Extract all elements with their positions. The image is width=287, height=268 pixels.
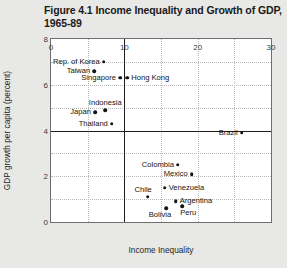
x-axis-tick-label: 0 — [49, 43, 53, 52]
data-point-label: Colombia — [142, 161, 174, 169]
gridline-horizontal — [51, 153, 271, 154]
data-point — [146, 195, 150, 199]
y-axis-tick-label: 6 — [44, 80, 48, 89]
y-axis-label: GDP growth per capita (percent) — [2, 38, 14, 223]
data-point-label: Japan — [70, 108, 91, 116]
data-point — [102, 60, 106, 64]
data-point-label: Rep. of Korea — [53, 58, 100, 66]
figure-title: Figure 4.1 Income Inequality and Growth … — [44, 4, 282, 29]
data-point — [174, 200, 178, 204]
figure-title-line2: 1965-89 — [44, 17, 282, 30]
data-point — [163, 186, 167, 190]
data-point-label: Indonesia — [89, 99, 122, 107]
x-axis-tick-label: 30 — [267, 43, 276, 52]
gridline-horizontal — [51, 176, 271, 177]
data-point — [110, 122, 114, 126]
data-point — [190, 172, 194, 176]
data-point — [125, 76, 129, 80]
y-axis-tick-label: 2 — [44, 172, 48, 181]
x-axis-label: Income Inequality — [50, 245, 272, 255]
data-point-label: Venezuela — [169, 184, 204, 192]
data-point-label: Hong Kong — [131, 74, 169, 82]
x-axis-tick-label: 20 — [193, 43, 202, 52]
reference-line-horizontal — [51, 131, 271, 132]
x-axis-tick-label: 10 — [120, 43, 129, 52]
data-point-label: Thailand — [79, 120, 108, 128]
gridline-horizontal — [51, 199, 271, 200]
y-axis-tick-label: 8 — [44, 35, 48, 44]
data-point — [176, 163, 180, 167]
data-point-label: Bolivia — [149, 211, 171, 219]
data-point-label: Chile — [134, 186, 151, 194]
data-point — [103, 108, 107, 112]
figure-title-line1: Figure 4.1 Income Inequality and Growth … — [44, 4, 282, 16]
data-point-label: Argentina — [180, 197, 213, 205]
data-point-label: Mexico — [164, 170, 188, 178]
figure-container: Figure 4.1 Income Inequality and Growth … — [0, 0, 287, 268]
y-axis-tick-label: 4 — [44, 126, 48, 135]
gridline-horizontal — [51, 85, 271, 86]
data-point — [93, 110, 97, 114]
data-point-label: Brazil — [219, 129, 238, 137]
y-axis-tick-label: 0 — [44, 218, 48, 227]
data-point-label: Peru — [180, 209, 196, 217]
scatter-plot-area: 024680102030Rep. of KoreaTaiwanSingapore… — [50, 38, 272, 223]
data-point-label: Singapore — [81, 74, 116, 82]
data-point — [240, 131, 244, 135]
data-point — [118, 76, 122, 80]
